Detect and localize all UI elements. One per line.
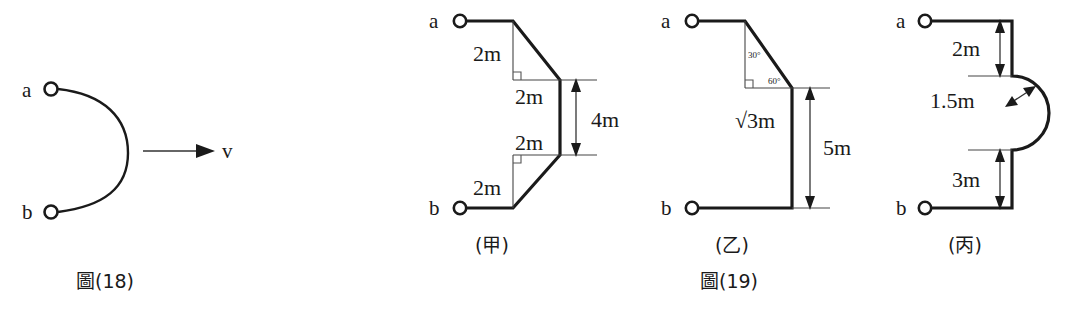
panel-jia-right-angle-marker-top — [513, 72, 521, 80]
panel-bing-terminal-a-label: a — [896, 9, 906, 33]
figure-18-caption: 圖(18) — [76, 266, 134, 293]
panel-jia-terminal-b-node — [454, 202, 466, 214]
panel-jia-dim-label-4m: 4m — [591, 107, 619, 132]
panel-bing-conductor — [931, 21, 1049, 208]
figure-18-velocity-label: v — [222, 139, 233, 163]
panel-bing-dim-label-2m: 2m — [952, 36, 980, 61]
panel-yi-terminal-a-label: a — [661, 9, 671, 33]
figure-18-terminal-a-label: a — [22, 78, 32, 102]
panel-yi-terminal-a-node — [686, 15, 698, 27]
panel-bing-dim-radius-arrow-out — [1023, 86, 1036, 97]
figure-18-velocity-arrow-head — [196, 144, 215, 158]
figure-18-terminal-a-node — [45, 83, 58, 96]
panel-jia-terminal-a-label: a — [429, 9, 439, 33]
panel-jia-right-angle-marker-bottom — [513, 155, 521, 163]
figure-19-caption: 圖(19) — [700, 266, 758, 293]
panel-bing-drawing: a b 2m 1.5m 3m — [890, 0, 1085, 235]
panel-bing-caption: (丙) — [948, 230, 982, 257]
panel-yi: a b 30° 60° √3m 5m (乙) — [655, 0, 870, 235]
panel-bing-terminal-b-label: b — [896, 196, 907, 220]
panel-yi-terminal-b-label: b — [661, 196, 672, 220]
panel-yi-angle-30-label: 30° — [748, 50, 761, 60]
figure-18-terminal-b-node — [45, 206, 58, 219]
panel-yi-dim-label-5m: 5m — [823, 135, 851, 160]
panel-jia-terminal-b-label: b — [429, 196, 440, 220]
panel-bing-terminal-b-node — [919, 202, 931, 214]
panel-yi-right-angle-marker — [745, 80, 753, 88]
panel-jia-dim-label-4: 2m — [473, 175, 501, 200]
figure-18-drawing: a b v — [0, 0, 330, 260]
panel-yi-angle-60-label: 60° — [768, 76, 781, 86]
panel-jia-dim-label-1: 2m — [473, 41, 501, 66]
panel-bing-dim-radius-arrow-in — [1005, 96, 1018, 107]
panel-bing-terminal-a-node — [919, 15, 931, 27]
panel-bing: a b 2m 1.5m 3m (丙) — [890, 0, 1085, 235]
panel-jia-caption: (甲) — [475, 230, 509, 257]
panel-jia-drawing: a b 2m 2m 2m 2m 4m — [415, 0, 635, 235]
figure-18-arc-conductor — [58, 89, 128, 212]
panel-bing-dim-label-3m: 3m — [952, 167, 980, 192]
panel-yi-drawing: a b 30° 60° √3m 5m — [655, 0, 870, 235]
panel-jia-dim-label-3: 2m — [515, 130, 543, 155]
panel-yi-caption: (乙) — [715, 230, 749, 257]
panel-yi-dim-label-sqrt3: √3m — [735, 108, 775, 133]
panel-bing-dim-label-1p5m: 1.5m — [930, 88, 975, 113]
panel-yi-terminal-b-node — [686, 202, 698, 214]
panel-jia-terminal-a-node — [454, 15, 466, 27]
figure-18-terminal-b-label: b — [22, 200, 33, 224]
panel-jia-dim-label-2: 2m — [515, 84, 543, 109]
figure-18: a b v 圖(18) — [0, 0, 330, 260]
panel-jia: a b 2m 2m 2m 2m 4m (甲) — [415, 0, 635, 235]
